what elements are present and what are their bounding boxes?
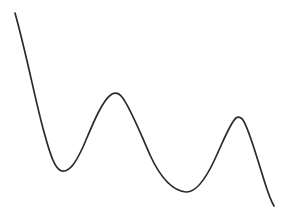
curve-plot bbox=[0, 0, 290, 211]
plot-background bbox=[0, 0, 290, 211]
figure-canvas bbox=[0, 0, 290, 211]
